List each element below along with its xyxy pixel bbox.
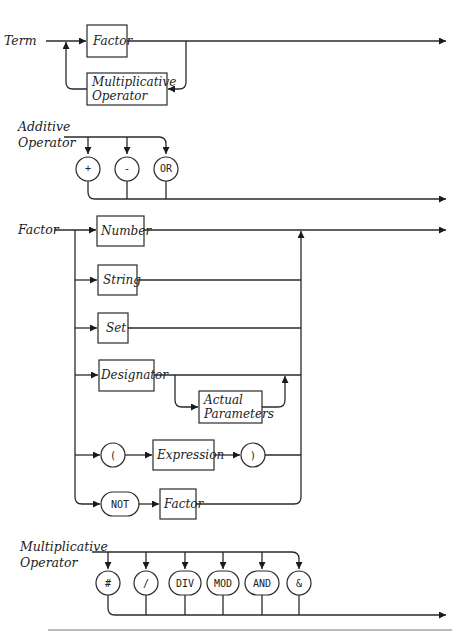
open-paren-text: ( bbox=[110, 450, 116, 461]
slash-text: / bbox=[143, 578, 149, 589]
and-text: AND bbox=[253, 578, 271, 589]
expression-text: Expression bbox=[156, 448, 224, 462]
mod-text: MOD bbox=[214, 578, 232, 589]
syntax-diagrams: Term Factor Multiplicative Operator Addi… bbox=[0, 0, 468, 633]
term-diagram: Term Factor Multiplicative Operator bbox=[4, 25, 446, 105]
actual-params-return bbox=[262, 376, 285, 407]
set-text: Set bbox=[106, 321, 126, 335]
additive-bottom-line bbox=[88, 181, 446, 199]
number-text: Number bbox=[100, 224, 152, 238]
multiplicative-operator-diagram: Multiplicative Operator # / DIV MOD AND … bbox=[19, 539, 446, 615]
div-text: DIV bbox=[176, 578, 194, 589]
term-label: Term bbox=[4, 33, 37, 48]
or-text: OR bbox=[160, 163, 173, 174]
string-text: String bbox=[103, 273, 141, 287]
factor-label: Factor bbox=[17, 222, 60, 237]
additive-top-line bbox=[64, 137, 166, 154]
close-paren-text: ) bbox=[250, 450, 256, 461]
term-multop-text-2: Operator bbox=[92, 89, 149, 103]
factor-left-rail bbox=[75, 230, 100, 504]
additive-operator-diagram: Additive Operator + - OR bbox=[17, 119, 446, 199]
multop-top-line bbox=[92, 552, 299, 569]
plus-text: + bbox=[85, 163, 91, 174]
term-loop-up bbox=[66, 42, 87, 89]
term-multop-text-1: Multiplicative bbox=[91, 75, 176, 89]
minus-text: - bbox=[124, 163, 130, 174]
additive-label-1: Additive bbox=[17, 119, 71, 134]
hash-text: # bbox=[105, 578, 111, 589]
multop-label-2: Operator bbox=[20, 555, 79, 570]
factor-diagram: Factor Number String Set Designator Actu… bbox=[17, 216, 446, 519]
actual-params-text-1: Actual bbox=[203, 393, 243, 407]
ampersand-text: & bbox=[296, 578, 302, 589]
not-text: NOT bbox=[111, 499, 129, 510]
multop-bottom-line bbox=[108, 595, 446, 615]
actual-params-text-2: Parameters bbox=[203, 407, 274, 421]
actual-params-branch bbox=[175, 375, 198, 407]
